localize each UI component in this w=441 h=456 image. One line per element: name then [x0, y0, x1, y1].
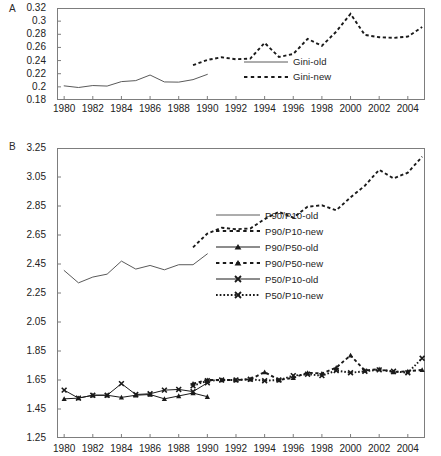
legend-item-P50/P10-old[interactable]: P50/P10-old	[215, 271, 323, 287]
legend-label: Gini-old	[293, 56, 327, 67]
panel-b-y-axis-labels: 1.251.451.651.852.052.252.452.652.853.05…	[0, 148, 52, 438]
panel-a-series-layer	[57, 8, 425, 100]
y-tick-label: 1.65	[27, 375, 46, 385]
x-tick-label: 1988	[168, 443, 190, 455]
x-tick-label: 2002	[368, 103, 390, 115]
legend-key-P90/P10-new	[215, 225, 261, 237]
y-tick-label: 2.65	[27, 230, 46, 240]
legend-key-P90/P50-old	[215, 241, 261, 253]
panel-a-legend: Gini-oldGini-new	[243, 54, 331, 84]
y-tick-label: 2.25	[27, 288, 46, 298]
legend-key-P50/P10-new	[215, 289, 261, 301]
x-tick-label: 1992	[225, 103, 247, 115]
x-tick-label: 1996	[282, 443, 304, 455]
x-tick-label: 1992	[225, 443, 247, 455]
y-tick-label: 0.18	[27, 95, 46, 105]
x-tick-label: 1982	[82, 103, 104, 115]
y-tick-label: 0.22	[27, 69, 46, 79]
legend-key-P50/P10-old	[215, 273, 261, 285]
legend-label: P90/P50-old	[265, 242, 318, 253]
x-tick-label: 1982	[82, 443, 104, 455]
series-line-P90/P10-old	[64, 254, 207, 283]
y-tick-label: 2.85	[27, 201, 46, 211]
y-tick-label: 1.85	[27, 346, 46, 356]
y-tick-label: 3.05	[27, 172, 46, 182]
series-line-Gini-old	[64, 74, 207, 87]
marker-triangle	[262, 369, 267, 374]
panel-a-y-axis-labels: 0.180.20.220.240.260.280.30.32	[0, 8, 52, 100]
legend-label: P90/P50-new	[265, 258, 323, 269]
x-tick-label: 2000	[339, 103, 361, 115]
marker-x	[420, 356, 425, 361]
x-tick-label: 1984	[110, 443, 132, 455]
x-tick-label: 1986	[139, 103, 161, 115]
x-tick-label: 1984	[110, 103, 132, 115]
y-tick-label: 0.32	[27, 3, 46, 13]
x-tick-label: 1980	[53, 103, 75, 115]
legend-item-P90/P50-new[interactable]: P90/P50-new	[215, 255, 323, 271]
x-tick-label: 1998	[311, 103, 333, 115]
legend-item-P90/P10-old[interactable]: P90/P10-old	[215, 207, 323, 223]
marker-x	[119, 381, 124, 386]
legend-label: Gini-new	[293, 71, 331, 82]
marker-x	[62, 388, 67, 393]
legend-key-P90/P10-old	[215, 209, 261, 221]
legend-label: P90/P10-old	[265, 210, 318, 221]
y-tick-label: 0.26	[27, 42, 46, 52]
panel-b: B 1.251.451.651.852.052.252.452.652.853.…	[0, 130, 441, 386]
x-tick-label: 2004	[397, 103, 419, 115]
y-tick-label: 0.24	[27, 56, 46, 66]
x-tick-label: 1994	[254, 443, 276, 455]
legend-label: P50/P10-new	[265, 290, 323, 301]
legend-key-Gini-old	[243, 56, 289, 68]
legend-item-P90/P50-old[interactable]: P90/P50-old	[215, 239, 323, 255]
x-tick-label: 1988	[168, 103, 190, 115]
legend-key-Gini-new	[243, 71, 289, 83]
legend-item-P90/P10-new[interactable]: P90/P10-new	[215, 223, 323, 239]
panel-b-x-axis-labels: 1980198219841986198819901992199419961998…	[57, 443, 425, 456]
x-tick-label: 1986	[139, 443, 161, 455]
legend-item-Gini-old[interactable]: Gini-old	[243, 54, 331, 69]
x-tick-label: 2002	[368, 443, 390, 455]
legend-key-P90/P50-new	[215, 257, 261, 269]
panel-b-legend: P90/P10-oldP90/P10-newP90/P50-oldP90/P50…	[215, 207, 323, 303]
x-tick-label: 2000	[339, 443, 361, 455]
x-tick-label: 1998	[311, 443, 333, 455]
y-tick-label: 1.45	[27, 404, 46, 414]
marker-triangle	[348, 353, 353, 358]
legend-item-Gini-new[interactable]: Gini-new	[243, 69, 331, 84]
legend-label: P90/P10-new	[265, 226, 323, 237]
y-tick-label: 0.28	[27, 29, 46, 39]
x-tick-label: 1980	[53, 443, 75, 455]
legend-label: P50/P10-old	[265, 274, 318, 285]
y-tick-label: 1.25	[27, 433, 46, 443]
x-tick-label: 1990	[196, 103, 218, 115]
panel-a-x-axis-labels: 1980198219841986198819901992199419961998…	[57, 103, 425, 117]
y-tick-label: 0.3	[32, 16, 46, 26]
x-tick-label: 1994	[254, 103, 276, 115]
legend-item-P50/P10-new[interactable]: P50/P10-new	[215, 287, 323, 303]
y-tick-label: 2.05	[27, 317, 46, 327]
x-tick-label: 2004	[397, 443, 419, 455]
y-tick-label: 2.45	[27, 259, 46, 269]
x-tick-label: 1990	[196, 443, 218, 455]
y-tick-label: 0.2	[32, 82, 46, 92]
panel-a: A 0.180.20.220.240.260.280.30.32 1980198…	[0, 0, 441, 130]
y-tick-label: 3.25	[27, 143, 46, 153]
x-tick-label: 1996	[282, 103, 304, 115]
panel-a-plot-area	[57, 8, 425, 100]
